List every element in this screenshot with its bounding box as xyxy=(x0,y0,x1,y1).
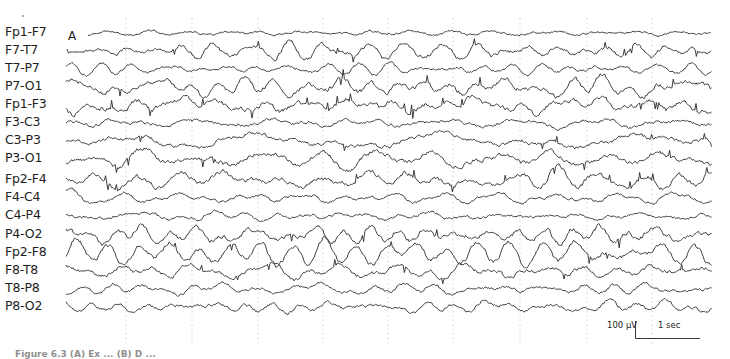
channel-label: T7-P7 xyxy=(5,61,40,75)
eeg-trace xyxy=(66,148,712,172)
channel-label: T8-P8 xyxy=(5,281,40,295)
eeg-trace xyxy=(66,224,712,248)
stray-mark xyxy=(22,15,24,17)
eeg-trace xyxy=(66,210,712,222)
eeg-trace xyxy=(66,94,712,119)
eeg-trace xyxy=(66,118,712,130)
channel-label: P3-O1 xyxy=(5,151,42,165)
channel-label: Fp1-F7 xyxy=(5,25,47,39)
eeg-trace xyxy=(67,39,711,62)
channel-label: P7-O1 xyxy=(5,79,42,93)
channel-label: C3-P3 xyxy=(5,133,41,147)
eeg-trace xyxy=(66,70,712,99)
channel-label: F8-T8 xyxy=(5,263,38,277)
eeg-traces xyxy=(66,30,712,315)
eeg-trace xyxy=(66,62,712,77)
panel-letter: A xyxy=(68,29,76,43)
channel-label: P8-O2 xyxy=(5,299,42,313)
channel-label: P4-O2 xyxy=(5,227,42,241)
channel-label: Fp1-F3 xyxy=(5,97,47,111)
eeg-trace xyxy=(88,30,711,37)
eeg-trace xyxy=(66,298,712,314)
eeg-trace xyxy=(66,260,712,284)
eeg-trace xyxy=(66,164,712,192)
eeg-trace xyxy=(66,188,712,204)
eeg-trace xyxy=(66,236,712,268)
eeg-trace xyxy=(66,130,712,150)
scale-amplitude-label: 100 µV xyxy=(607,320,637,330)
channel-label: F4-C4 xyxy=(5,190,40,204)
channel-label: F7-T7 xyxy=(5,43,38,57)
channel-label: C4-P4 xyxy=(5,208,41,222)
channel-label: Fp2-F8 xyxy=(5,245,47,259)
channel-label: F3-C3 xyxy=(5,115,40,129)
figure-caption: Figure 6.3 (A) Ex ... (B) D ... xyxy=(15,349,156,359)
eeg-trace xyxy=(66,282,712,297)
scale-time-label: 1 sec xyxy=(658,320,680,330)
channel-label: Fp2-F4 xyxy=(5,172,47,186)
